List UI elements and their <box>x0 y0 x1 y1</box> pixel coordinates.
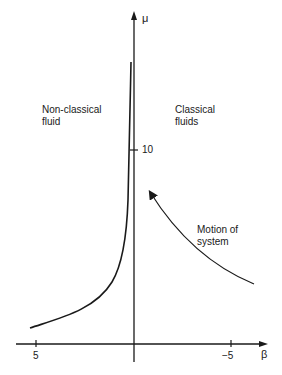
y-axis-arrow-icon <box>131 11 137 20</box>
y-tick-label-10: 10 <box>142 144 153 156</box>
motion-label: Motion of system <box>197 224 238 248</box>
x-axis-arrow-icon <box>259 341 268 347</box>
x-tick-label-minus5: −5 <box>222 350 233 362</box>
y-axis-label: μ <box>142 12 148 24</box>
nonclassical-label: Non-classical fluid <box>42 104 101 128</box>
chart-canvas <box>0 0 282 375</box>
classical-label: Classical fluids <box>175 104 215 128</box>
boundary-curve <box>30 62 131 328</box>
x-axis-label: β <box>261 348 267 360</box>
x-tick-label-5: 5 <box>33 350 39 362</box>
